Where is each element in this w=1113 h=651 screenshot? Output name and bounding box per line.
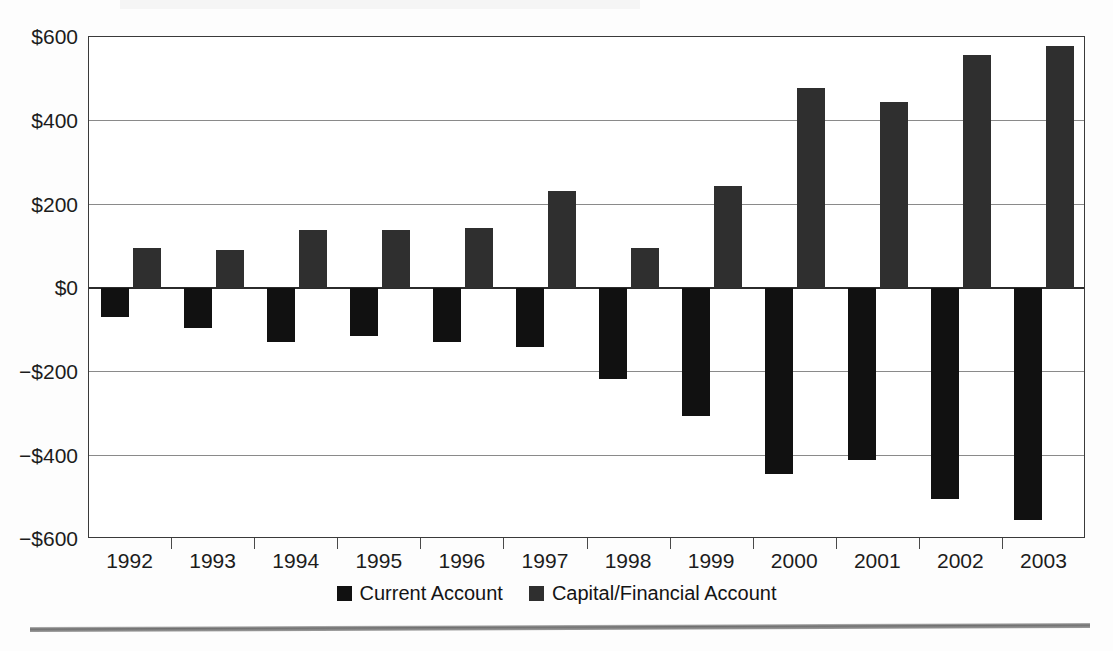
bar-1992-capital-financial-account [133,248,161,288]
legend-entry-capital-financial-account: Capital/Financial Account [529,583,777,603]
bar-1994-current-account [267,288,295,342]
chart-figure: $600 $400 $200 $0 −$200 −$400 −$600 1992… [0,0,1113,651]
bar-1998-current-account [599,288,627,379]
y-tick-label: −$200 [0,360,78,384]
bar-1997-current-account [516,288,544,347]
legend-entry-current-account: Current Account [337,583,503,603]
gridline-400 [89,120,1084,121]
bar-2003-capital-financial-account [1046,46,1074,288]
x-axis-tick [171,538,172,549]
x-tick-label-2002: 2002 [915,549,1005,573]
bar-1993-current-account [184,288,212,328]
x-tick-label-1992: 1992 [85,549,175,573]
x-tick-label-1997: 1997 [500,549,590,573]
bar-1995-capital-financial-account [382,230,410,288]
bar-1998-capital-financial-account [631,248,659,288]
x-tick-label-2003: 2003 [998,549,1088,573]
bar-2000-current-account [765,288,793,474]
bar-2003-current-account [1014,288,1042,520]
bar-2002-capital-financial-account [963,55,991,288]
bar-1994-capital-financial-account [299,230,327,288]
bottom-divider-rule [30,623,1090,632]
x-axis-tick [420,538,421,549]
plot-area [88,36,1085,538]
legend-label-current-account: Current Account [360,583,503,603]
bar-2000-capital-financial-account [797,88,825,288]
x-tick-label-1994: 1994 [251,549,341,573]
bar-1996-current-account [433,288,461,342]
x-tick-label-1993: 1993 [168,549,258,573]
bar-2002-current-account [931,288,959,499]
bar-1995-current-account [350,288,378,336]
y-tick-label: $200 [0,193,78,217]
y-tick-label: $400 [0,109,78,133]
legend-label-capital-financial-account: Capital/Financial Account [552,583,777,603]
y-tick-label: −$400 [0,444,78,468]
x-axis-tick [753,538,754,549]
gridline-200 [89,204,1084,205]
x-axis-tick [587,538,588,549]
y-tick-label: −$600 [0,527,78,551]
x-axis-tick [1002,538,1003,549]
x-axis-tick [337,538,338,549]
bar-1992-current-account [101,288,129,317]
legend-swatch-capital-financial-account-icon [529,586,544,601]
y-axis-labels: $600 $400 $200 $0 −$200 −$400 −$600 [0,0,78,651]
bar-1993-capital-financial-account [216,250,244,288]
y-tick-label: $0 [0,276,78,300]
y-tick-label: $600 [0,25,78,49]
x-axis-tick [919,538,920,549]
x-tick-label-2000: 2000 [749,549,839,573]
bar-2001-current-account [848,288,876,460]
x-axis-tick [836,538,837,549]
bar-1999-capital-financial-account [714,186,742,288]
scan-artifact [120,0,640,9]
bar-1997-capital-financial-account [548,191,576,288]
chart-legend: Current Account Capital/Financial Accoun… [0,583,1113,603]
x-tick-label-1996: 1996 [417,549,507,573]
x-tick-label-1999: 1999 [666,549,756,573]
x-axis-tick [503,538,504,549]
legend-swatch-current-account-icon [337,586,352,601]
bar-1996-capital-financial-account [465,228,493,288]
bar-2001-capital-financial-account [880,102,908,288]
x-tick-label-1995: 1995 [334,549,424,573]
x-tick-label-2001: 2001 [832,549,922,573]
x-tick-label-1998: 1998 [583,549,673,573]
x-axis-tick [670,538,671,549]
x-axis-tick [254,538,255,549]
bar-1999-current-account [682,288,710,416]
